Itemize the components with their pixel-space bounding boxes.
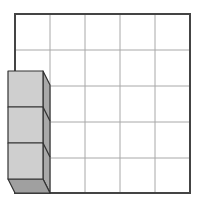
cube-1-front [8, 71, 43, 107]
cube-stack-side-face [43, 71, 50, 193]
grid-diagram [0, 0, 198, 214]
cube-stack [8, 71, 50, 193]
cube-2-front [8, 107, 43, 143]
cube-3-front [8, 143, 43, 179]
cube-stack-bottom-face [8, 179, 50, 193]
